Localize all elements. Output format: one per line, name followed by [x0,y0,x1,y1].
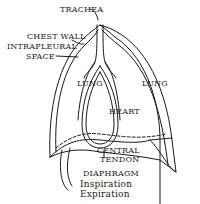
heart-label: HEART [109,108,140,116]
lung-right-label: LUNG [142,80,168,88]
central-label: CENTRAL [97,147,140,155]
chest-wall-label: CHEST WALL [27,33,86,41]
expiration-arrow [67,148,72,186]
tendon-label: TENDON [100,156,139,164]
intrapleural-label: INTRAPLEURAL [7,43,77,51]
space-label: SPACE [26,53,55,61]
inspiration-label: Inspiration [80,180,132,189]
lung-right-outer [102,30,168,165]
lung-left-label: LUNG [77,80,103,88]
intrapleural-leader [56,56,78,57]
diaphragm-label: DIAPHRAGM [83,170,139,178]
trachea-label: TRACHEA [60,6,103,14]
expiration-label: Expiration [80,190,130,199]
